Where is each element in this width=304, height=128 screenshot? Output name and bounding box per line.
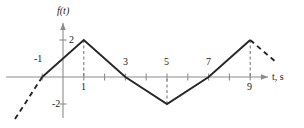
x-tick-label-9: 9 xyxy=(247,82,252,92)
drop-lines xyxy=(84,40,250,104)
x-tick-label-minus1: -1 xyxy=(34,54,42,64)
x-axis-label: t, s xyxy=(272,72,284,82)
y-axis-label: f(t) xyxy=(57,6,69,16)
waveform-figure: f(t) t, s -1 1 3 5 7 9 2 -2 xyxy=(0,0,304,128)
triangular-waveform-plot xyxy=(0,0,304,128)
y-tick-label-minus2: -2 xyxy=(52,99,60,109)
x-axis-label-unit: , s xyxy=(275,71,284,82)
x-tick-label-5: 5 xyxy=(164,57,169,67)
curve-dashed-right xyxy=(250,40,277,63)
curve-solid xyxy=(42,40,250,104)
x-tick-label-7: 7 xyxy=(206,57,211,67)
x-tick-label-3: 3 xyxy=(123,57,128,67)
x-tick-label-1: 1 xyxy=(81,82,86,92)
curve-dashed-left xyxy=(15,77,42,119)
y-tick-label-2: 2 xyxy=(69,35,74,45)
